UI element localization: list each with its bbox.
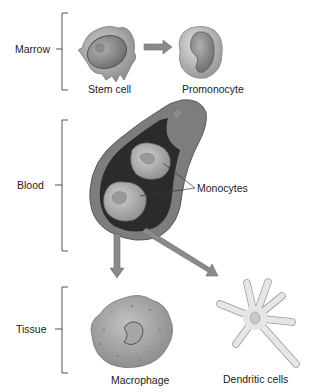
arrow-blood-to-dendritic	[142, 228, 218, 276]
stage-label-blood: Blood	[17, 179, 44, 191]
label-dendritic-cells: Dendritic cells	[223, 373, 288, 385]
blood-vessel-illustration	[90, 100, 207, 240]
stem-cell-illustration	[78, 26, 135, 82]
stage-label-marrow: Marrow	[15, 43, 50, 55]
marrow-bracket	[56, 13, 68, 90]
label-stem-cell: Stem cell	[88, 83, 131, 95]
label-monocytes: Monocytes	[197, 182, 248, 194]
macrophage-illustration	[91, 295, 173, 367]
promonocyte-illustration	[179, 26, 222, 78]
label-promonocyte: Promonocyte	[182, 83, 244, 95]
dendritic-cell-illustration	[220, 282, 296, 364]
label-macrophage: Macrophage	[111, 374, 169, 386]
tissue-bracket	[55, 287, 68, 373]
arrow-stem-to-promonocyte	[144, 40, 172, 54]
stage-label-tissue: Tissue	[16, 323, 47, 335]
arrow-blood-to-macrophage	[110, 234, 124, 278]
blood-bracket	[55, 120, 68, 251]
